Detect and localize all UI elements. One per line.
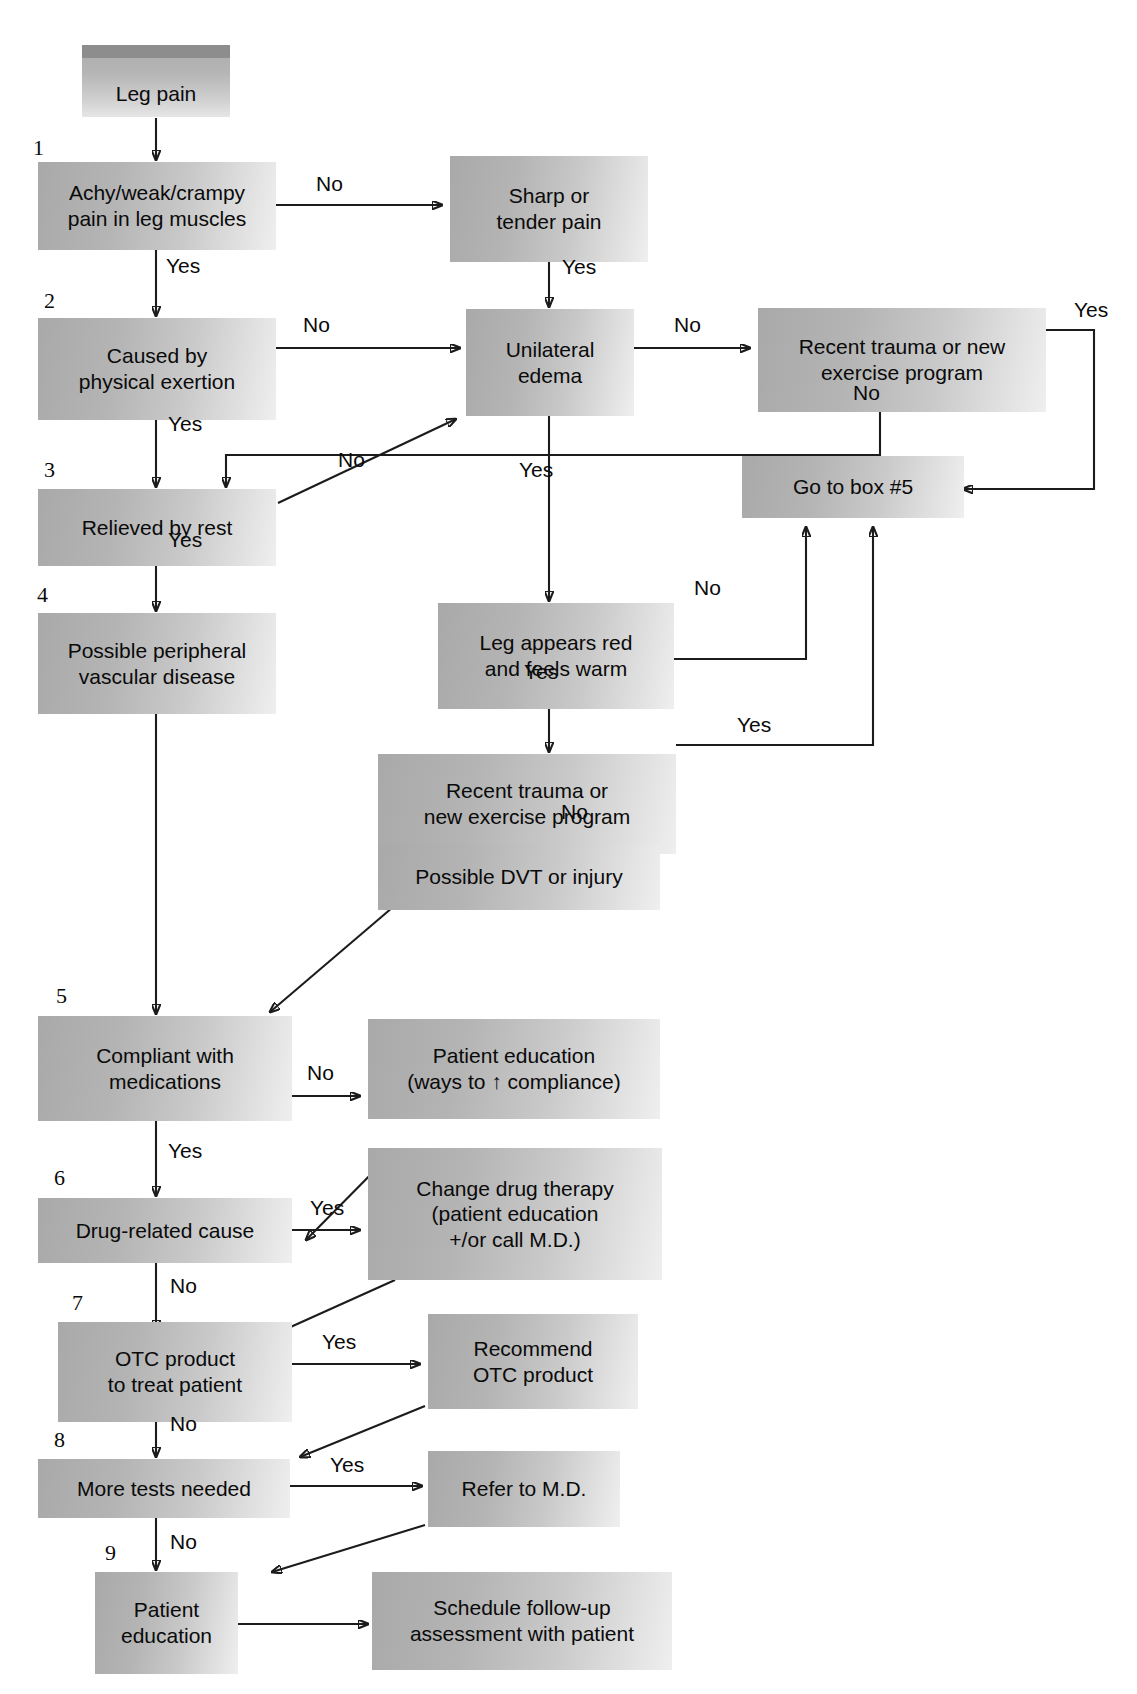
node-leg-pain-label: Leg pain [116,81,197,107]
node-rest-label: Relieved by rest [82,515,233,541]
node-exertion-line1: Caused by [107,343,207,369]
node-moretests-label: More tests needed [77,1476,251,1502]
node-possible-pvd[interactable]: Possible peripheral vascular disease [38,613,276,714]
edge-label-redwarm-no: No [694,576,721,600]
edge-label-traumalow-no: No [561,800,588,824]
step-number-7: 7 [72,1290,83,1316]
node-compliant-line2: medications [109,1069,221,1095]
node-ptedu-line1: Patient [134,1597,199,1623]
node-changedrug-line1: Change drug therapy [416,1176,613,1202]
node-relieved-by-rest[interactable]: Relieved by rest [38,489,276,566]
flowchart-canvas: Leg pain Achy/weak/crampy pain in leg mu… [0,0,1137,1694]
node-ptedu-compl-line1: Patient education [433,1043,595,1069]
node-edema-line1: Unilateral [506,337,595,363]
step-number-3: 3 [44,457,55,483]
edge-label-compliant-no: No [307,1061,334,1085]
node-compliant-with-medications[interactable]: Compliant with medications [38,1016,292,1121]
edge-label-redwarm-yes: Yes [524,660,558,684]
step-number-4: 4 [37,582,48,608]
node-traumalow-line2: new exercise program [424,804,631,830]
node-changedrug-line2: (patient education [432,1201,599,1227]
edge-label-rest-yes: Yes [168,528,202,552]
node-pvd-line1: Possible peripheral [68,638,247,664]
node-traumatop-line1: Recent trauma or new [799,334,1006,360]
node-otc-product[interactable]: OTC product to treat patient [58,1322,292,1422]
edge-label-achy-yes: Yes [166,254,200,278]
step-number-1: 1 [33,135,44,161]
step-number-8: 8 [54,1427,65,1453]
node-achy-weak-crampy[interactable]: Achy/weak/crampy pain in leg muscles [38,162,276,250]
node-recent-trauma-top[interactable]: Recent trauma or new exercise program [758,308,1046,412]
step-number-6: 6 [54,1165,65,1191]
node-edema-line2: edema [518,363,582,389]
edge-label-compliant-yes: Yes [168,1139,202,1163]
node-leg-pain[interactable]: Leg pain [82,45,230,117]
edge-label-sharp-yes: Yes [562,255,596,279]
edge-label-tests-no: No [170,1530,197,1554]
node-patient-education-compliance[interactable]: Patient education (ways to ↑ compliance) [368,1019,660,1119]
node-dvt-label: Possible DVT or injury [415,864,622,890]
node-drug-related-cause[interactable]: Drug-related cause [38,1198,292,1263]
node-achy-line1: Achy/weak/crampy [69,180,245,206]
step-number-2: 2 [44,288,55,314]
node-sharp-line1: Sharp or [509,183,590,209]
edge-label-drug-yes: Yes [310,1196,344,1220]
edge-label-drug-no: No [170,1274,197,1298]
node-ptedu-compl-line2: (ways to ↑ compliance) [407,1069,621,1095]
edge-label-rest-no: No [338,448,365,472]
edge-label-traumatop-yes: Yes [1074,298,1108,322]
step-number-5: 5 [56,983,67,1009]
edge-label-edema-no: No [674,313,701,337]
node-schedule-line1: Schedule follow-up [433,1595,610,1621]
node-redwarm-line1: Leg appears red [480,630,633,656]
node-changedrug-line3: +/or call M.D.) [449,1227,580,1253]
node-recent-trauma-low[interactable]: Recent trauma or new exercise program [378,754,676,854]
node-refermd-label: Refer to M.D. [462,1476,587,1502]
edge-label-traumalow-yes: Yes [737,713,771,737]
node-more-tests-needed[interactable]: More tests needed [38,1459,290,1518]
node-caused-by-physical-exertion[interactable]: Caused by physical exertion [38,318,276,420]
edge-label-exertion-no: No [303,313,330,337]
node-possible-dvt[interactable]: Possible DVT or injury [378,844,660,910]
node-recommend-line1: Recommend [473,1336,592,1362]
node-unilateral-edema[interactable]: Unilateral edema [466,309,634,416]
link-changedrug-to-otc [275,1280,395,1334]
node-schedule-followup[interactable]: Schedule follow-up assessment with patie… [372,1572,672,1670]
link-rest-no-edema [278,419,456,503]
edge-label-exertion-yes: Yes [168,412,202,436]
node-leg-red-warm[interactable]: Leg appears red and feels warm [438,603,674,709]
edge-label-achy-no: No [316,172,343,196]
node-otc-line2: to treat patient [108,1372,242,1398]
edge-label-otc-no: No [170,1412,197,1436]
node-schedule-line2: assessment with patient [410,1621,634,1647]
node-go-to-box-5[interactable]: Go to box #5 [742,456,964,518]
node-patient-education-final[interactable]: Patient education [95,1572,238,1674]
node-sharp-line2: tender pain [496,209,601,235]
node-ptedu-line2: education [121,1623,212,1649]
node-drugcause-label: Drug-related cause [76,1218,255,1244]
node-otc-line1: OTC product [115,1346,235,1372]
link-traumalow-yes-goto5 [676,527,873,745]
node-traumatop-line2: exercise program [821,360,983,386]
edge-label-traumatop-no: No [853,381,880,405]
node-recommend-otc-product[interactable]: Recommend OTC product [428,1314,638,1409]
node-achy-line2: pain in leg muscles [68,206,247,232]
link-recommend-to-moretests [300,1406,425,1457]
node-compliant-line1: Compliant with [96,1043,234,1069]
link-refermd-to-ptedu [272,1525,425,1572]
node-exertion-line2: physical exertion [79,369,235,395]
edge-label-tests-yes: Yes [330,1453,364,1477]
node-change-drug-therapy[interactable]: Change drug therapy (patient education +… [368,1148,662,1280]
node-refer-to-md[interactable]: Refer to M.D. [428,1451,620,1527]
node-recommend-line2: OTC product [473,1362,593,1388]
node-goto5-label: Go to box #5 [793,474,913,500]
node-pvd-line2: vascular disease [79,664,235,690]
edge-label-otc-yes: Yes [322,1330,356,1354]
step-number-9: 9 [105,1540,116,1566]
node-sharp-or-tender-pain[interactable]: Sharp or tender pain [450,156,648,262]
edge-label-edema-yes: Yes [519,458,553,482]
